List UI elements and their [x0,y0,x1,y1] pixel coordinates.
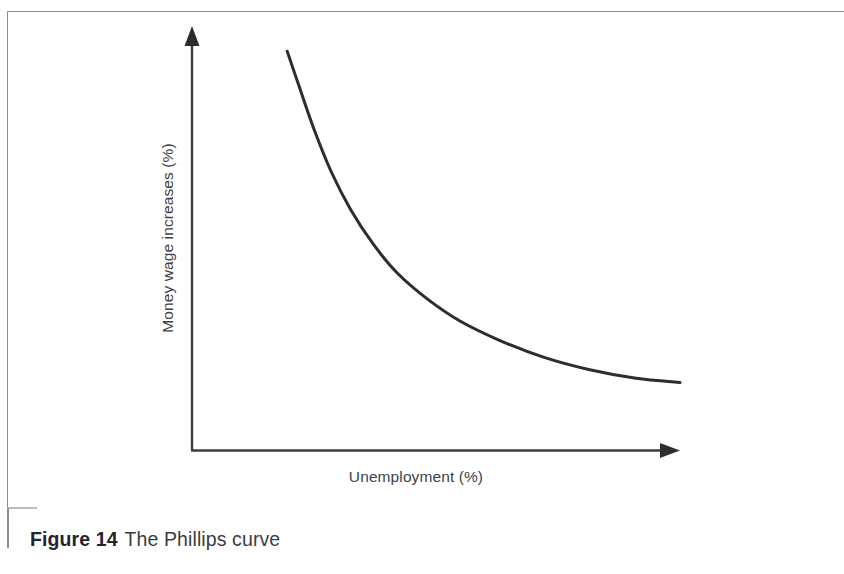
y-axis-title: Money wage increases (%) [159,143,177,332]
figure-caption-text: The Phillips curve [125,528,281,550]
figure-canvas: Money wage increases (%) Unemployment (%… [0,0,844,574]
plot-area: Money wage increases (%) Unemployment (%… [0,0,844,510]
arrow-up-icon [185,26,200,46]
figure-caption-number: Figure 14 [30,528,118,550]
phillips-curve-line [287,51,680,382]
x-axis-title: Unemployment (%) [349,468,483,486]
figure-caption: Figure 14The Phillips curve [30,528,280,551]
arrow-right-icon [660,443,680,458]
figure-frame-left-tail [7,508,9,548]
